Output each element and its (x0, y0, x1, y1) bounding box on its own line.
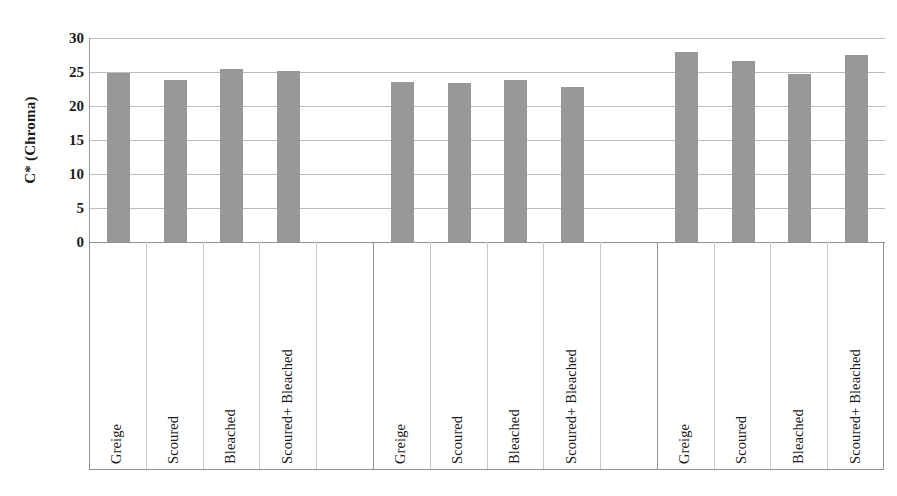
bar (220, 69, 243, 242)
category-label: Bleached (506, 242, 522, 464)
category-label: Greige (108, 242, 124, 464)
gridline-20 (90, 106, 885, 107)
bar (164, 80, 187, 242)
bar (675, 52, 698, 242)
category-separator (714, 242, 715, 470)
bar (845, 55, 868, 242)
category-label: Scoured+ Bleached (563, 242, 579, 464)
chart-container: C* (Chroma) 302520151050 GreigeScouredBl… (0, 0, 897, 496)
gridline-5 (90, 208, 885, 209)
group-separator (89, 242, 90, 470)
gridline-15 (90, 140, 885, 141)
y-axis-title: C* (Chroma) (22, 0, 44, 40)
category-separator (146, 242, 147, 470)
y-tick-label-30: 30 (50, 30, 84, 45)
category-label: Scoured (733, 242, 749, 464)
category-label: Scoured (165, 242, 181, 464)
category-band-bottom-rule (89, 469, 884, 470)
category-separator (430, 242, 431, 470)
category-label: Greige (676, 242, 692, 464)
plot-area (89, 38, 884, 242)
y-tick-label-5: 5 (50, 200, 84, 215)
gridline-10 (90, 174, 885, 175)
y-tick-label-15: 15 (50, 132, 84, 147)
category-separator (600, 242, 601, 470)
category-label: Bleached (222, 242, 238, 464)
group-separator (657, 242, 658, 470)
category-label: Scoured+ Bleached (847, 242, 863, 464)
category-separator (259, 242, 260, 470)
bar (504, 80, 527, 241)
category-label: Greige (392, 242, 408, 464)
category-separator (543, 242, 544, 470)
bar (391, 82, 414, 242)
category-label: Scoured+ Bleached (279, 242, 295, 464)
category-separator (770, 242, 771, 470)
category-label: Bleached (790, 242, 806, 464)
bar (561, 87, 584, 241)
bar (448, 83, 471, 241)
bar (107, 73, 130, 242)
y-tick-label-25: 25 (50, 64, 84, 79)
category-label-band: GreigeScouredBleachedScoured+ BleachedGr… (89, 242, 884, 470)
category-separator (827, 242, 828, 470)
bar (277, 71, 300, 242)
y-tick-label-20: 20 (50, 98, 84, 113)
y-tick-label-0: 0 (50, 234, 84, 249)
gridline-25 (90, 72, 885, 73)
category-label: Scoured (449, 242, 465, 464)
y-axis-ticks: 302520151050 (50, 30, 84, 250)
gridline-30 (90, 38, 885, 39)
bar (732, 61, 755, 242)
category-separator (487, 242, 488, 470)
y-tick-label-10: 10 (50, 166, 84, 181)
y-axis-title-text: C* (Chroma) (22, 40, 39, 240)
group-separator (883, 242, 884, 470)
category-separator (316, 242, 317, 470)
bar (788, 74, 811, 242)
group-separator (373, 242, 374, 470)
category-separator (203, 242, 204, 470)
